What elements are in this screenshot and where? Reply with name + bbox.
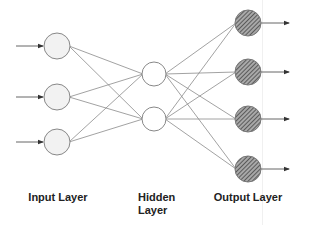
connection-edge [165, 74, 236, 169]
hidden-node [142, 62, 166, 86]
hidden-layer-label-line1: Hidden [138, 191, 182, 204]
output-node [235, 156, 261, 182]
input-node [44, 129, 70, 155]
hidden-node [142, 107, 166, 131]
connection-edge [165, 23, 236, 119]
input-node [44, 33, 70, 59]
connection-edge [69, 119, 143, 142]
connection-edge [69, 74, 143, 97]
hidden-layer-label-line2: Layer [138, 204, 182, 217]
connection-edge [165, 23, 236, 74]
output-node [235, 106, 261, 132]
connection-edge [165, 119, 236, 169]
hidden-layer-label: Hidden Layer [126, 191, 182, 217]
connections [69, 23, 236, 169]
output-node [235, 10, 261, 36]
connection-edge [165, 72, 236, 74]
output-node [235, 59, 261, 85]
input-layer-label: Input Layer [22, 191, 94, 204]
output-layer-label: Output Layer [206, 191, 290, 204]
nodes [44, 10, 261, 182]
input-node [44, 84, 70, 110]
connection-edge [69, 46, 143, 74]
